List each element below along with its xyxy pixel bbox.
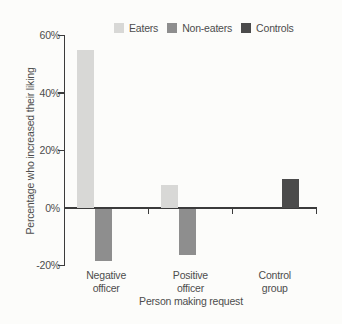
bar-chart-figure: Percentage who increased their liking Ea…	[0, 0, 342, 324]
x-category-label-positive-officer: Positiveofficer	[148, 269, 232, 294]
bar-eaters-positive-officer	[161, 185, 178, 208]
legend-swatch-non-eaters	[167, 23, 177, 33]
x-tick	[316, 209, 317, 214]
legend-item-non-eaters: Non-eaters	[167, 22, 232, 34]
x-category-label-line: group	[233, 282, 317, 295]
x-category-label-line: Negative	[64, 269, 148, 282]
x-tick	[232, 209, 233, 214]
y-tick-label: 40%	[18, 87, 60, 100]
x-category-label-line: Control	[233, 269, 317, 282]
bar-eaters-negative-officer	[77, 50, 94, 208]
bar-non-eaters-positive-officer	[179, 209, 196, 255]
x-category-label-line: Positive	[148, 269, 232, 282]
bar-controls-control-group	[282, 179, 299, 208]
y-axis-line	[64, 35, 65, 266]
x-category-label-line: officer	[148, 282, 232, 295]
legend-swatch-eaters	[114, 23, 124, 33]
legend-label: Eaters	[129, 22, 158, 34]
x-axis-title: Person making request	[65, 295, 317, 307]
x-tick	[148, 209, 149, 214]
x-category-label-negative-officer: Negativeofficer	[64, 269, 148, 294]
legend-label: Controls	[256, 22, 294, 34]
x-category-label-control-group: Controlgroup	[233, 269, 317, 294]
y-tick-label: 20%	[18, 144, 60, 157]
y-tick-label: 0%	[18, 202, 60, 215]
legend-item-controls: Controls	[241, 22, 294, 34]
legend-label: Non-eaters	[182, 22, 232, 34]
legend: EatersNon-eatersControls	[114, 22, 294, 34]
legend-swatch-controls	[241, 23, 251, 33]
bar-non-eaters-negative-officer	[95, 209, 112, 261]
y-tick-label: 60%	[18, 29, 60, 42]
legend-item-eaters: Eaters	[114, 22, 158, 34]
y-tick-label: -20%	[18, 259, 60, 272]
x-category-label-line: officer	[64, 282, 148, 295]
